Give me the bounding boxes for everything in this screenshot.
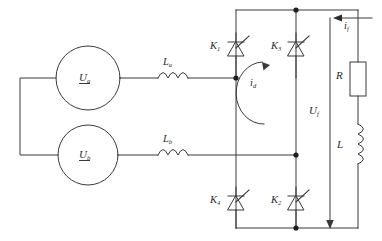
top-branch-wire: [120, 73, 236, 79]
circuit-diagram-canvas: Ua Ub La Lb K1 K3 K4 K2 id if Uf R: [0, 0, 382, 241]
circulating-current-arrow: [236, 62, 270, 124]
source-a-label: Ua: [79, 72, 90, 85]
thyristor-k4-label: K4: [210, 195, 220, 206]
load-current-arrow: [333, 15, 372, 22]
thyristor-k3-symbol: [288, 33, 309, 78]
thyristor-k1-label: K1: [210, 41, 220, 52]
output-voltage-label: Uf: [309, 105, 319, 118]
junction-dot-mid-right: [293, 152, 298, 157]
thyristor-k3-label: K3: [271, 41, 281, 52]
output-voltage-arrow: [326, 18, 334, 229]
load-current-label: if: [344, 21, 349, 32]
line-inductor-b-label: Lb: [163, 134, 172, 145]
junction-dot-top-left: [233, 75, 238, 80]
junction-dot-bottom-rail: [293, 225, 298, 230]
load-inductor-label: L: [337, 139, 343, 150]
thyristor-k4-symbol: [228, 187, 249, 228]
load-resistor-body: [350, 62, 366, 96]
bottom-branch-wire: [118, 150, 296, 156]
line-inductor-a-label: La: [163, 57, 172, 68]
junction-dot-top-rail: [293, 7, 298, 12]
bridge-frame: [236, 10, 358, 228]
thyristor-k2-symbol: [288, 187, 309, 228]
thyristor-k2-label: K2: [271, 195, 281, 206]
source-b-label: Ub: [79, 149, 90, 162]
left-return-wire: [20, 78, 58, 155]
thyristor-k1-symbol: [228, 33, 249, 78]
load-branch-wire: [350, 10, 366, 228]
circulating-current-label: id: [250, 78, 256, 89]
load-resistor-label: R: [336, 70, 343, 81]
circuit-schematic-svg: [0, 0, 382, 241]
